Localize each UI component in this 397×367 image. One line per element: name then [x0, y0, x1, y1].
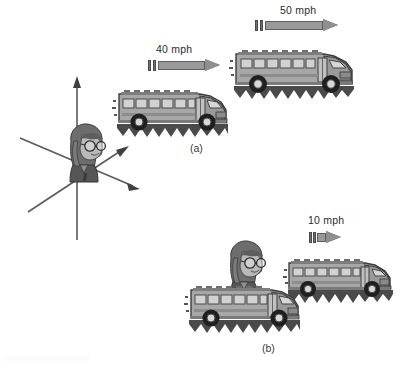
vector-tail-block-1	[255, 20, 258, 31]
vector-tail-block-2	[260, 20, 263, 31]
bus-front-40mph	[112, 76, 236, 144]
speed-label-40mph: 40 mph	[156, 44, 192, 55]
speed-label-10mph: 10 mph	[308, 215, 344, 226]
vector-shaft	[265, 21, 323, 30]
panel-label-a: (a)	[190, 143, 203, 154]
vector-tail-block-1	[309, 232, 312, 243]
panel-label-b: (b)	[262, 343, 275, 354]
vector-arrowhead	[323, 19, 338, 31]
vector-tail-block-2	[313, 232, 316, 243]
physics-figure-relative-velocity: 40 mph 50 mph	[0, 0, 397, 367]
scan-artifact	[4, 356, 90, 361]
vector-tail-block-1	[148, 60, 151, 71]
vector-shaft	[317, 233, 326, 242]
speed-label-50mph: 50 mph	[280, 5, 316, 16]
velocity-vector-10mph	[309, 231, 345, 244]
vector-tail-block-2	[153, 60, 156, 71]
velocity-vector-40mph	[148, 59, 220, 72]
vector-shaft	[158, 61, 205, 70]
vector-arrowhead	[326, 231, 341, 243]
velocity-vector-50mph	[255, 19, 341, 32]
bus-observer	[184, 272, 308, 340]
bus-rear-50mph	[228, 34, 362, 108]
vector-arrowhead	[205, 59, 220, 71]
observer-girl-axes	[58, 121, 110, 183]
